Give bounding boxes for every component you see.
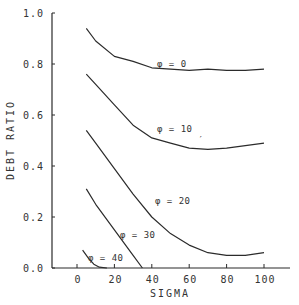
x-tick-label: 60 <box>183 274 197 285</box>
x-tick-label: 20 <box>108 274 122 285</box>
stray-mark: ′ <box>198 135 204 145</box>
y-tick-label: 1.0 <box>23 8 44 19</box>
debt-ratio-chart: 0.00.20.40.60.81.0020406080100SIGMADEBT … <box>0 0 299 305</box>
curve-label-phi: φ = 10 <box>157 124 193 134</box>
y-tick-label: 0.8 <box>23 59 44 70</box>
curve-label-phi: φ = 20 <box>155 196 191 206</box>
y-tick-label: 0.4 <box>23 161 44 172</box>
y-axis-title: DEBT RATIO <box>5 100 16 180</box>
y-tick-label: 0.2 <box>23 212 44 223</box>
y-tick-label: 0.6 <box>23 110 44 121</box>
x-tick-label: 80 <box>221 274 235 285</box>
x-tick-label: 0 <box>74 274 81 285</box>
x-tick-label: 40 <box>146 274 160 285</box>
x-tick-label: 100 <box>254 274 275 285</box>
y-tick-label: 0.0 <box>23 263 44 274</box>
curve-phi-2 <box>86 130 264 255</box>
axes <box>52 13 290 268</box>
curve-phi-1 <box>86 74 264 149</box>
curve-label-phi: φ = 40 <box>88 253 124 263</box>
x-axis-title: SIGMA <box>150 288 190 299</box>
curve-label-phi: φ = 0 <box>157 59 187 69</box>
curve-label-phi: φ = 30 <box>120 230 156 240</box>
